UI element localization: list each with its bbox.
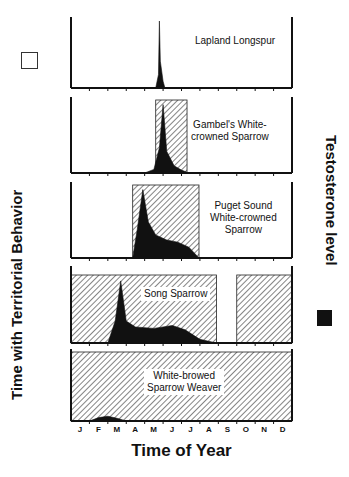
month-tick-label: J <box>182 425 200 434</box>
month-tick-label: J <box>163 425 181 434</box>
month-tick-label: N <box>255 425 273 434</box>
panel-label-lapland: Lapland Longspur <box>192 34 278 48</box>
month-tick-label: M <box>108 425 126 434</box>
panel <box>71 266 292 346</box>
month-tick-label: M <box>145 425 163 434</box>
panel-label-gambels: Gambel's White-crowned Sparrow <box>188 118 272 144</box>
chart-canvas <box>0 0 349 477</box>
panel <box>71 17 292 91</box>
legend-solid-swatch <box>317 310 332 326</box>
month-tick-label: O <box>237 425 255 434</box>
month-tick-label: S <box>218 425 236 434</box>
month-tick-label: A <box>126 425 144 434</box>
x-axis-label: Time of Year <box>71 441 292 461</box>
panel-label-song: Song Sparrow <box>141 287 210 301</box>
month-tick-label: A <box>200 425 218 434</box>
panel-label-puget: Puget SoundWhite-crownedSparrow <box>207 199 280 237</box>
month-tick-label: F <box>89 425 107 434</box>
panel-label-weaver: White-browedSparrow Weaver <box>144 369 224 395</box>
month-tick-label: J <box>71 425 89 434</box>
legend-hatched-swatch <box>21 52 38 69</box>
month-tick-label: D <box>274 425 292 434</box>
y-axis-label-left: Time with Territorial Behavior <box>8 190 25 400</box>
y-axis-label-right: Testosterone level <box>323 135 340 266</box>
